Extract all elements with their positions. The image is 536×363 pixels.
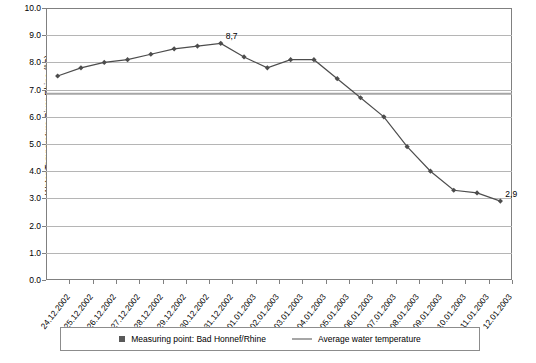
data-point-marker (78, 65, 83, 70)
measuring-point-line (58, 43, 501, 201)
y-axis-tick-label: 5.0 (29, 139, 41, 149)
data-point-marker (474, 190, 479, 195)
y-axis-tick-label: 10.0 (24, 3, 41, 13)
legend-line-icon (292, 338, 312, 340)
data-point-marker (218, 41, 223, 46)
x-axis-tick-mark (489, 280, 490, 284)
x-axis-tick-mark (419, 280, 420, 284)
data-point-marker (195, 43, 200, 48)
data-point-label: 2,9 (505, 189, 517, 199)
plot-area: 0.01.02.03.04.05.06.07.08.09.010.0 8,72,… (46, 8, 512, 280)
x-axis-tick-mark (326, 280, 327, 284)
x-axis-tick-mark (209, 280, 210, 284)
data-point-marker (102, 60, 107, 65)
x-axis-tick-mark (465, 280, 466, 284)
y-axis-tick-label: 7.0 (29, 85, 41, 95)
x-axis-tick-mark (442, 280, 443, 284)
data-point-marker (172, 46, 177, 51)
y-axis-tick-label: 1.0 (29, 248, 41, 258)
y-axis-tick-label: 2.0 (29, 221, 41, 231)
series-lines (46, 8, 512, 280)
y-axis-tick-mark (42, 280, 46, 281)
data-point-marker (265, 65, 270, 70)
y-axis-tick-label: 3.0 (29, 193, 41, 203)
legend-item-label: Measuring point: Bad Honnef/Rhine (131, 334, 266, 344)
data-point-marker (55, 73, 60, 78)
x-axis-tick-mark (163, 280, 164, 284)
x-axis-tick-mark (139, 280, 140, 284)
legend-item: Average water temperature (292, 334, 421, 344)
x-axis-tick-mark (93, 280, 94, 284)
data-point-marker (498, 199, 503, 204)
legend-item-label: Average water temperature (318, 334, 421, 344)
x-axis-tick-mark (232, 280, 233, 284)
y-axis-tick-label: 8.0 (29, 57, 41, 67)
x-axis-tick-mark (69, 280, 70, 284)
x-axis-tick-mark (512, 280, 513, 284)
x-axis-tick-mark (396, 280, 397, 284)
y-axis-tick-label: 9.0 (29, 30, 41, 40)
y-axis-tick-label: 4.0 (29, 166, 41, 176)
y-axis-tick-label: 0.0 (29, 275, 41, 285)
x-axis-tick-mark (372, 280, 373, 284)
x-axis-tick-mark (116, 280, 117, 284)
legend-item: Measuring point: Bad Honnef/Rhine (119, 334, 266, 344)
legend-square-icon (119, 336, 125, 342)
data-point-marker (125, 57, 130, 62)
x-axis-tick-mark (256, 280, 257, 284)
x-axis-tick-mark (302, 280, 303, 284)
x-axis-tick-mark (186, 280, 187, 284)
data-point-marker (148, 52, 153, 57)
y-axis-tick-label: 6.0 (29, 112, 41, 122)
data-point-marker (288, 57, 293, 62)
x-axis-tick-mark (279, 280, 280, 284)
chart-legend: Measuring point: Bad Honnef/RhineAverage… (60, 327, 480, 351)
x-axis-tick-mark (349, 280, 350, 284)
chart-container: Water Temperature River Rhine (°C) 0.01.… (0, 0, 536, 363)
data-point-label: 8,7 (226, 31, 238, 41)
data-point-marker (241, 54, 246, 59)
